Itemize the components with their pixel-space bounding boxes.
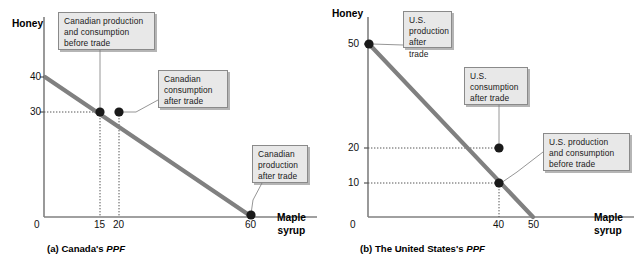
- callout-us-before-trade: U.S. production and consumption before t…: [543, 133, 630, 171]
- leader-us-before-trade: [501, 152, 543, 183]
- x-axis-title-a: Maple syrup: [277, 212, 306, 237]
- panel-us-ppf: Honey Maple syrup 50 20 10 0 40 50 U.S. …: [317, 0, 634, 269]
- figure-ppf-comparison: Honey Maple syrup 40 30 0 15 20 60 Canad…: [0, 0, 634, 269]
- origin-label-b: 0: [350, 219, 356, 230]
- y-tick-label-20-b: 20: [348, 142, 359, 153]
- callout-us-consumption-after-trade: U.S. consumption after trade: [464, 67, 528, 105]
- x-tick-label-40-b: 40: [493, 219, 504, 230]
- panel-a-plot: [0, 0, 317, 269]
- y-tick-label-50-b: 50: [348, 38, 359, 49]
- leader-canada-production-after-trade: [251, 183, 262, 214]
- point-canada-before-trade: [95, 107, 104, 116]
- panel-canada-ppf: Honey Maple syrup 40 30 0 15 20 60 Canad…: [0, 0, 317, 269]
- y-tick-label-40-a: 40: [30, 71, 41, 82]
- y-axis-title-a: Honey: [12, 18, 43, 31]
- origin-label-a: 0: [34, 219, 40, 230]
- callout-canada-production-after-trade: Canadian production after trade: [252, 145, 308, 183]
- caption-panel-a: (a) Canada's PPF: [47, 243, 125, 254]
- callout-canada-consumption-after-trade: Canadian consumption after trade: [158, 70, 228, 108]
- x-axis-title-b: Maple syrup: [594, 212, 623, 237]
- point-us-production-after-trade: [364, 39, 373, 48]
- point-us-before-trade: [494, 178, 503, 187]
- callout-canada-before-trade: Canadian production and consumption befo…: [58, 12, 155, 50]
- point-us-consumption-after-trade: [494, 143, 503, 152]
- x-tick-label-60-a: 60: [245, 219, 256, 230]
- caption-panel-b-prefix: (b) The United States's: [360, 243, 466, 254]
- caption-panel-a-italic: PPF: [106, 243, 125, 254]
- x-tick-label-15-a: 15: [94, 219, 105, 230]
- caption-panel-a-prefix: (a) Canada's: [47, 243, 106, 254]
- caption-panel-b: (b) The United States's PPF: [360, 243, 485, 254]
- y-axis-title-b: Honey: [332, 8, 363, 21]
- point-canada-consumption-after-trade: [114, 107, 123, 116]
- caption-panel-b-italic: PPF: [466, 243, 485, 254]
- leader-canada-consumption-after-trade: [121, 100, 158, 112]
- x-tick-label-50-b: 50: [528, 219, 539, 230]
- y-tick-label-30-a: 30: [30, 106, 41, 117]
- y-tick-label-10-b: 10: [348, 177, 359, 188]
- leader-us-production-after-trade: [372, 44, 403, 45]
- x-tick-label-20-a: 20: [113, 219, 124, 230]
- callout-us-production-after-trade: U.S. production after trade: [403, 11, 452, 48]
